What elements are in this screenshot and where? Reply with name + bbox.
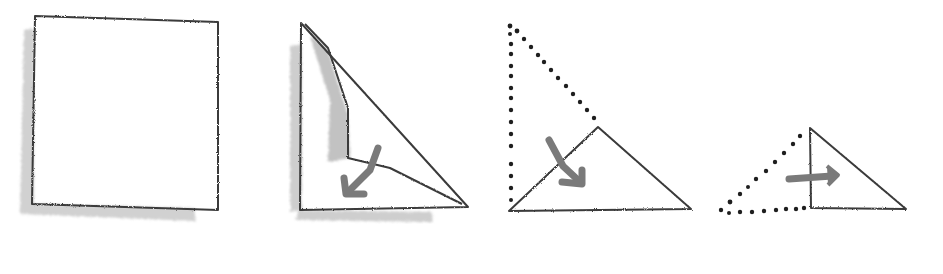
arrow-right-icon — [789, 166, 838, 185]
step-2-shadow-bottom — [296, 210, 433, 222]
step-3-triangle — [508, 24, 691, 211]
step-2-outline — [300, 23, 468, 210]
step-1-shadow — [20, 28, 195, 221]
step-4-outline — [810, 128, 906, 209]
step-4-dotted-outline — [719, 134, 806, 215]
origami-diagram — [0, 0, 943, 274]
step-3-outline — [509, 127, 691, 211]
step-1-square — [20, 16, 218, 221]
step-1-outline — [32, 16, 218, 210]
step-4-small-triangle — [719, 128, 906, 215]
step-2-folding — [290, 23, 468, 222]
